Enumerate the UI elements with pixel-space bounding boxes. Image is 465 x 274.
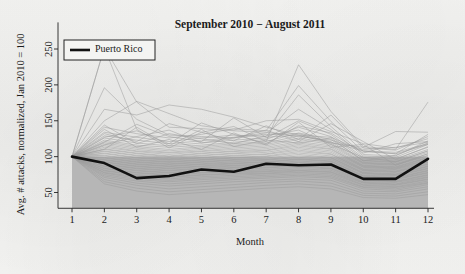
y-tick-label: 200	[43, 77, 54, 93]
chart-title: September 2010 − August 2011	[175, 18, 326, 31]
x-tick-label: 10	[358, 214, 369, 225]
x-tick-label: 6	[231, 214, 236, 225]
x-axis-title: Month	[236, 236, 265, 247]
chart-figure: 12345678910111250100150200250September 2…	[0, 0, 465, 274]
y-tick-label: 150	[43, 113, 54, 129]
x-tick-label: 2	[102, 214, 107, 225]
y-tick-label: 250	[43, 41, 54, 57]
x-tick-label: 7	[264, 214, 269, 225]
x-tick-label: 9	[328, 214, 333, 225]
x-tick-label: 8	[296, 214, 301, 225]
y-tick-label: 50	[43, 187, 54, 198]
y-axis-title: Avg. # attacks, normalized, Jan 2010 = 1…	[15, 33, 26, 215]
line-chart-plot: 12345678910111250100150200250September 2…	[0, 0, 465, 274]
background-series-line	[72, 48, 428, 157]
y-tick-label: 100	[43, 149, 54, 165]
x-tick-label: 3	[134, 214, 139, 225]
x-axis-ticks: 123456789101112	[69, 208, 433, 225]
x-tick-label: 11	[391, 214, 401, 225]
y-axis-ticks: 50100150200250	[43, 41, 58, 198]
legend[interactable]: Puerto Rico	[64, 40, 155, 60]
x-tick-label: 1	[69, 214, 74, 225]
x-tick-label: 5	[199, 214, 204, 225]
legend-label: Puerto Rico	[95, 43, 143, 54]
background-series-line	[72, 48, 428, 157]
x-tick-label: 12	[423, 214, 434, 225]
x-tick-label: 4	[166, 214, 172, 225]
